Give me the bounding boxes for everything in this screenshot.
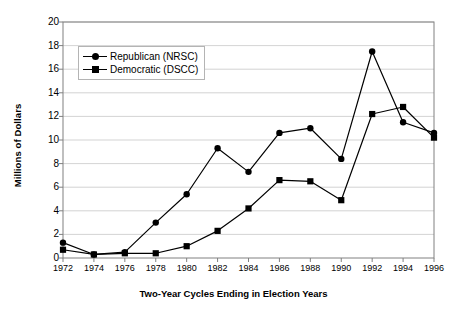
legend-marker-square-icon [83, 64, 107, 75]
data-point-democratic [338, 197, 344, 203]
data-point-republican [369, 48, 375, 54]
data-point-democratic [122, 250, 128, 256]
x-tick-label: 1996 [414, 263, 454, 273]
data-point-democratic [153, 250, 159, 256]
data-point-democratic [307, 178, 313, 184]
series-line-republican [63, 52, 434, 255]
x-axis-title: Two-Year Cycles Ending in Election Years [0, 288, 467, 299]
data-point-democratic [400, 104, 406, 110]
data-point-democratic [91, 251, 97, 257]
data-point-democratic [214, 228, 220, 234]
data-point-republican [60, 239, 66, 245]
data-point-democratic [60, 247, 66, 253]
legend-label-republican: Republican (NRSC) [110, 51, 198, 62]
chart-container: Millions of Dollars 02468101214161820 19… [0, 0, 467, 315]
legend-marker-circle-icon [83, 51, 107, 62]
data-point-republican [214, 145, 220, 151]
legend-label-democratic: Democratic (DSCC) [110, 64, 198, 75]
data-point-republican [183, 191, 189, 197]
data-point-republican [153, 219, 159, 225]
data-point-democratic [276, 177, 282, 183]
data-point-republican [338, 156, 344, 162]
legend-item-republican: Republican (NRSC) [83, 50, 198, 63]
series-line-democratic [63, 107, 434, 255]
chart-legend: Republican (NRSC) Democratic (DSCC) [78, 46, 205, 80]
data-point-republican [245, 169, 251, 175]
data-point-democratic [369, 111, 375, 117]
legend-item-democratic: Democratic (DSCC) [83, 63, 198, 76]
data-point-democratic [431, 135, 437, 141]
data-point-republican [307, 125, 313, 131]
data-point-republican [276, 130, 282, 136]
data-point-democratic [184, 243, 190, 249]
data-point-republican [400, 119, 406, 125]
data-point-democratic [245, 205, 251, 211]
